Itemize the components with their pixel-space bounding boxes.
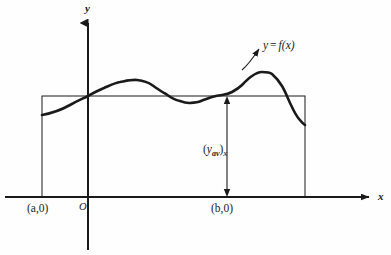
average-rectangle [42, 96, 305, 197]
function-curve [42, 72, 305, 125]
average-arrow-head-up-icon [224, 96, 230, 104]
average-arrow-head-down-icon [224, 189, 230, 197]
y-axis-label: y [85, 3, 90, 14]
origin-label: O [79, 202, 87, 213]
curve-equation-label: y=f(x) [263, 40, 295, 52]
avg-label-av-subscript: av [212, 149, 220, 158]
point-label-b: (b,0) [211, 203, 233, 215]
curve-label-equals: = [268, 39, 279, 51]
avg-label-x-subscript: x [223, 148, 227, 158]
x-axis-label: x [378, 191, 384, 202]
curve-label-leader-arrow-icon [242, 49, 259, 70]
average-ordinate-label: (yav)x [203, 144, 227, 156]
point-label-a: (a,0) [27, 203, 48, 215]
figure-container: y x O (a,0) (b,0) y=f(x) (yav)x [0, 0, 391, 255]
curve-label-fx: f(x) [279, 39, 295, 51]
diagram-canvas [0, 0, 391, 255]
